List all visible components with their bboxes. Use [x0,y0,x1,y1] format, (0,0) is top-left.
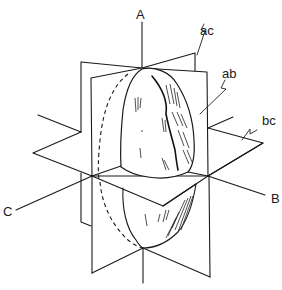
plane-ab-right-edge [209,176,210,277]
axis-b-front [208,176,265,195]
plane-ac-lower [81,173,91,226]
plane-label-ab: ab [222,66,236,81]
plane-ab-bottom-right [143,248,210,277]
plane-bc-back-left-edge [33,132,81,153]
plane-label-bc: bc [262,113,276,128]
axis-label-c: C [3,204,12,219]
axis-b-back [208,117,233,128]
axis-c-back [38,115,81,132]
body-hidden-contour-lower [100,182,143,248]
plane-label-ac: ac [200,23,214,38]
diagram-canvas: A B C ac ab bc [0,0,282,290]
plane-ab-bottom-left [92,248,143,273]
plane-bc-right-edge [208,143,263,176]
axis-label-a: A [136,7,145,22]
axis-label-b: B [271,191,280,206]
reference-planes-diagram: A B C ac ab bc [0,0,282,290]
